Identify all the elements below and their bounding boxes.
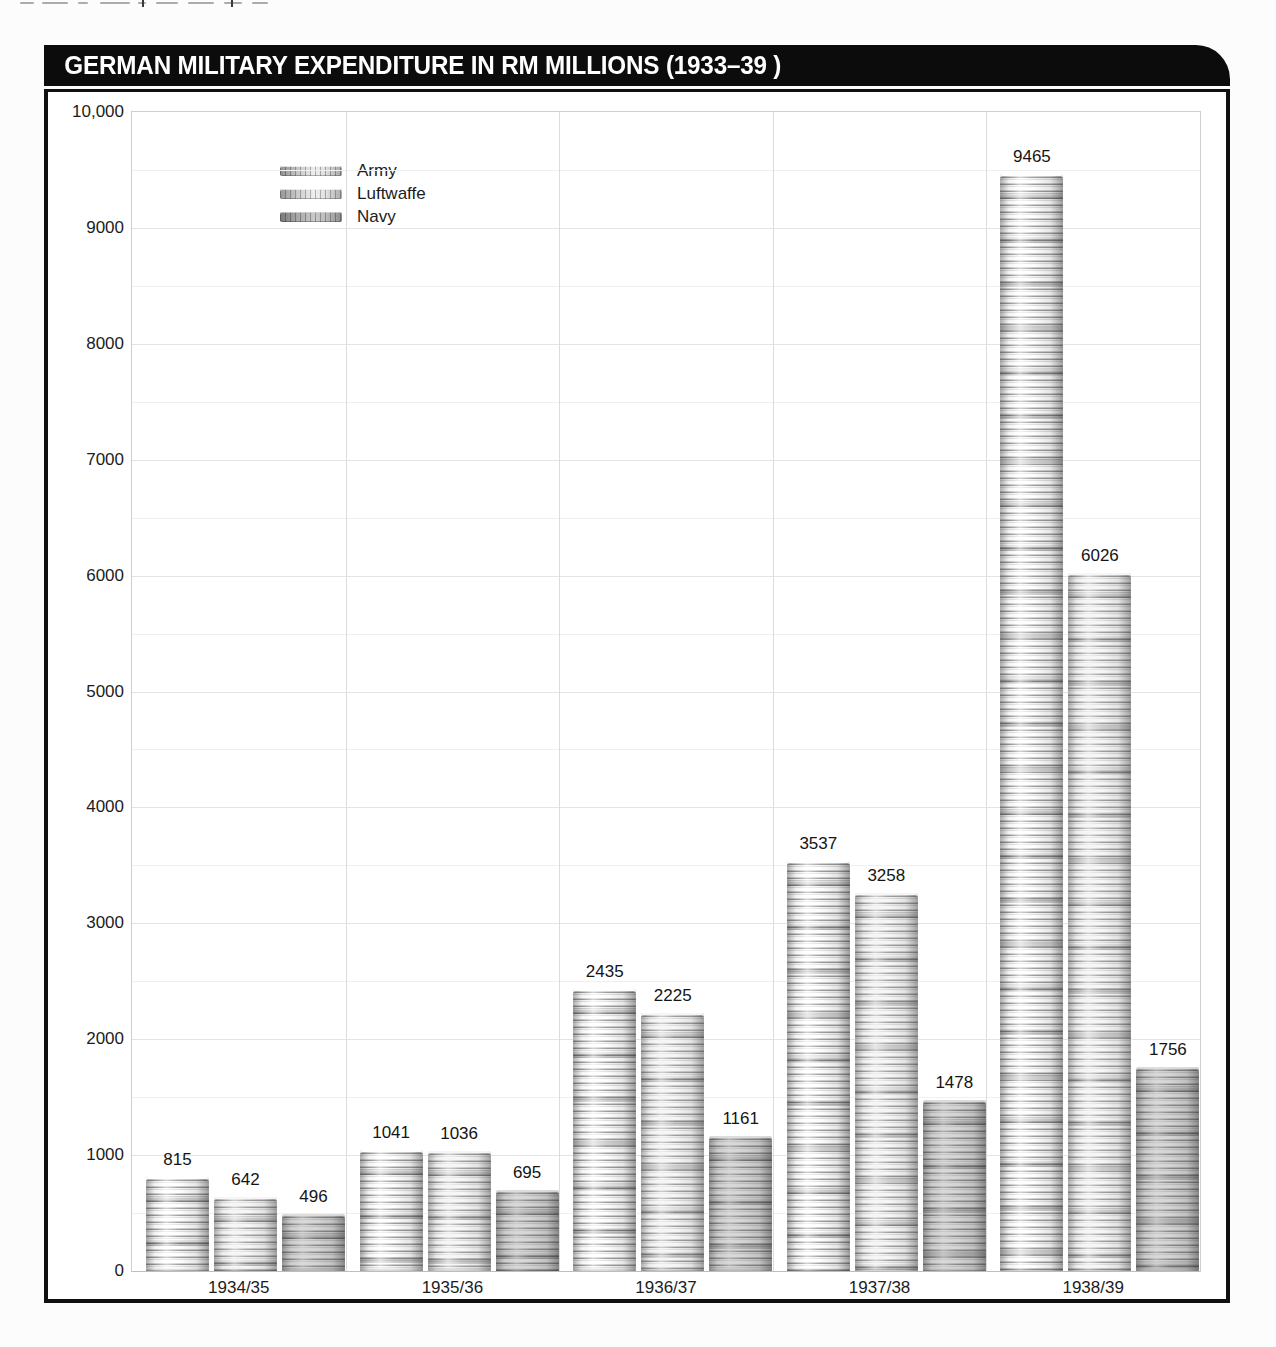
cropped-page-text-fragment — [20, 0, 270, 8]
bar-luftwaffe-1938-39 — [1068, 573, 1131, 1271]
group-divider-4 — [986, 112, 987, 1271]
group-divider-1 — [346, 112, 347, 1271]
chart-title-bar: GERMAN MILITARY EXPENDITURE IN RM MILLIO… — [44, 45, 1230, 86]
bar-navy-1936-37 — [709, 1136, 772, 1271]
x-tick-1934-35: 1934/35 — [159, 1278, 319, 1298]
legend-label-navy: Navy — [357, 205, 396, 228]
value-label-luftwaffe-1938-39: 6026 — [1040, 546, 1160, 566]
value-label-navy-1938-39: 1756 — [1108, 1040, 1228, 1060]
group-divider-2 — [559, 112, 560, 1271]
legend-swatch-navy-coin-icon — [280, 212, 342, 222]
chart-body: ArmyLuftwaffeNavy 0100020003000400050006… — [44, 89, 1230, 1303]
y-tick-8000: 8000 — [44, 335, 124, 353]
bar-navy-1935-36 — [496, 1190, 559, 1271]
y-tick-0: 0 — [44, 1262, 124, 1280]
legend-label-luftwaffe: Luftwaffe — [357, 182, 426, 205]
value-label-army-1938-39: 9465 — [972, 147, 1092, 167]
value-label-navy-1935-36: 695 — [467, 1163, 587, 1183]
legend-row-navy: Navy — [280, 205, 426, 228]
bar-army-1936-37 — [573, 989, 636, 1271]
chart-card: GERMAN MILITARY EXPENDITURE IN RM MILLIO… — [44, 45, 1230, 1303]
bar-navy-1938-39 — [1136, 1067, 1199, 1271]
y-tick-2000: 2000 — [44, 1030, 124, 1048]
bar-army-1934-35 — [146, 1177, 209, 1271]
bar-luftwaffe-1936-37 — [641, 1013, 704, 1271]
y-tick-6000: 6000 — [44, 567, 124, 585]
value-label-army-1937-38: 3537 — [758, 834, 878, 854]
chart-title: GERMAN MILITARY EXPENDITURE IN RM MILLIO… — [44, 51, 781, 80]
y-tick-1000: 1000 — [44, 1146, 124, 1164]
value-label-luftwaffe-1936-37: 2225 — [613, 986, 733, 1006]
value-label-luftwaffe-1935-36: 1036 — [399, 1124, 519, 1144]
legend-swatch-luftwaffe-coin-icon — [280, 189, 342, 199]
plot-area: ArmyLuftwaffeNavy 0100020003000400050006… — [131, 111, 1201, 1272]
value-label-army-1936-37: 2435 — [545, 962, 665, 982]
bar-army-1938-39 — [1000, 174, 1063, 1271]
bar-army-1935-36 — [360, 1150, 423, 1271]
value-label-navy-1936-37: 1161 — [681, 1109, 801, 1129]
y-tick-9000: 9000 — [44, 219, 124, 237]
value-label-navy-1934-35: 496 — [254, 1187, 374, 1207]
y-tick-10000: 10,000 — [44, 103, 124, 121]
x-tick-1935-36: 1935/36 — [372, 1278, 532, 1298]
y-tick-3000: 3000 — [44, 914, 124, 932]
group-divider-3 — [773, 112, 774, 1271]
x-tick-1938-39: 1938/39 — [1013, 1278, 1173, 1298]
bar-army-1937-38 — [787, 861, 850, 1271]
y-tick-7000: 7000 — [44, 451, 124, 469]
bar-luftwaffe-1934-35 — [214, 1197, 277, 1271]
bar-navy-1934-35 — [282, 1214, 345, 1271]
x-tick-1937-38: 1937/38 — [800, 1278, 960, 1298]
bar-navy-1937-38 — [923, 1100, 986, 1271]
value-label-luftwaffe-1937-38: 3258 — [826, 866, 946, 886]
minor-gridline-9500 — [132, 170, 1200, 171]
value-label-navy-1937-38: 1478 — [894, 1073, 1014, 1093]
value-label-army-1934-35: 815 — [118, 1150, 238, 1170]
x-tick-1936-37: 1936/37 — [586, 1278, 746, 1298]
legend-row-luftwaffe: Luftwaffe — [280, 182, 426, 205]
y-tick-4000: 4000 — [44, 798, 124, 816]
y-tick-5000: 5000 — [44, 683, 124, 701]
